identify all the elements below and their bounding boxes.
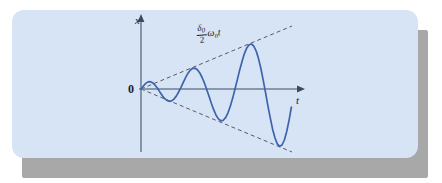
envelope-formula-label: δ0 2 ωnt xyxy=(196,22,221,45)
plot-canvas xyxy=(0,0,442,183)
origin-label: 0 xyxy=(128,83,134,95)
x-axis-label: x xyxy=(135,15,140,26)
figure-root: x t 0 δ0 2 ωnt xyxy=(0,0,442,183)
formula-numerator-subscript: 0 xyxy=(201,26,205,34)
formula-denominator: 2 xyxy=(197,35,207,45)
t-axis-label: t xyxy=(296,95,299,106)
formula-omega-term: ωnt xyxy=(206,27,221,40)
oscillation-curve xyxy=(141,44,291,146)
t-axis-arrowhead xyxy=(297,86,305,93)
